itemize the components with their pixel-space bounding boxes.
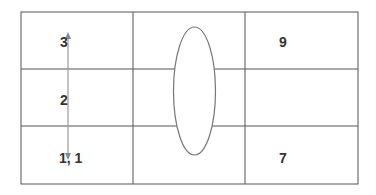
cell-label-r1c1: 3 [60,35,68,49]
cell-label-r1c3: 9 [279,35,287,49]
diagram-canvas [0,0,376,195]
cell-label-r2c1: 2 [60,93,68,107]
cell-label-r3c3: 7 [279,151,287,165]
cell-label-r3c1: 1, 1 [59,151,82,165]
ellipse-shape [174,27,216,155]
